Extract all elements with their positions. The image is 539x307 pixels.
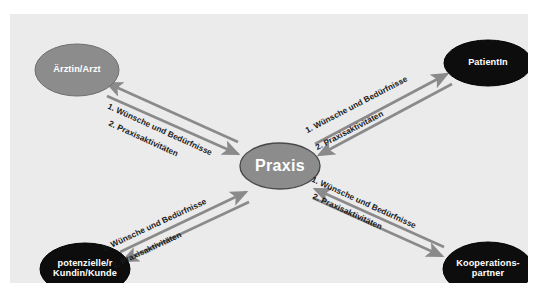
node-ellipse-kooperationspartner[interactable] <box>443 242 528 283</box>
arrow-kooperationspartner-to-praxis <box>315 189 444 247</box>
diagram-root: Ärztin/Arzt PatientIn Praxis potenzielle… <box>0 0 539 307</box>
node-ellipse-praxis[interactable] <box>240 143 320 189</box>
node-ellipse-patientin[interactable] <box>444 40 528 86</box>
node-ellipse-arzt[interactable] <box>35 44 119 96</box>
arrow-arzt-to-praxis <box>107 96 238 154</box>
arrow-kunde-to-praxis <box>120 192 246 252</box>
diagram-canvas <box>10 14 528 283</box>
diagram-panel: Ärztin/Arzt PatientIn Praxis potenzielle… <box>10 14 528 283</box>
